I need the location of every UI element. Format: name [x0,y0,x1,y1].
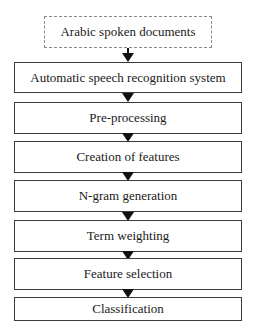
input-box-label: Arabic spoken documents [60,24,195,40]
step-label: Automatic speech recognition system [30,70,225,86]
step-box-creation-of-features: Creation of features [14,141,242,173]
arrow-down-icon [122,48,134,62]
arrow-down-icon [122,93,134,102]
step-box-feature-selection: Feature selection [14,258,242,290]
step-box-term-weighting: Term weighting [14,220,242,252]
step-box-n-gram-generation: N-gram generation [14,180,242,212]
arrow-down-icon [122,173,134,180]
step-box-pre-processing: Pre-processing [14,102,242,134]
step-label: Feature selection [84,266,172,282]
step-label: Term weighting [87,228,170,244]
step-label: Classification [92,301,164,317]
arrow-down-icon [122,134,134,141]
step-box-asr: Automatic speech recognition system [14,62,242,93]
step-label: N-gram generation [79,188,178,204]
step-box-classification: Classification [14,297,242,321]
input-box-arabic-spoken-documents: Arabic spoken documents [44,16,212,48]
arrow-down-icon [122,290,134,297]
step-label: Pre-processing [89,110,166,126]
arrow-down-icon [122,212,134,220]
step-label: Creation of features [76,149,179,165]
